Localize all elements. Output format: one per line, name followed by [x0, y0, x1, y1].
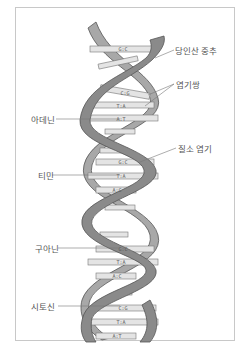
label-cytosine: 시토신 — [31, 300, 54, 312]
base-pair-text: T:A — [116, 173, 125, 179]
label-guanine: 구아닌 — [35, 242, 58, 254]
label-base-pair: 염기쌍 — [176, 78, 199, 90]
label-nitrogen-base: 질소 염기 — [178, 142, 212, 154]
base-pair-text: A:T — [112, 333, 121, 339]
label-adenine: 아데닌 — [31, 113, 54, 125]
base-pair-text: A:C — [112, 273, 121, 279]
base-pair-text: G:C — [118, 46, 127, 52]
base-pair-text: C:G — [120, 90, 129, 96]
base-pair-text: T:A — [116, 103, 125, 109]
base-pair-text: T:A — [116, 319, 125, 325]
label-backbone: 당인산 중추 — [175, 44, 217, 56]
base-pair-text: T:A — [116, 259, 125, 265]
base-pair-text: G:C — [118, 159, 127, 165]
base-pair-text: A:C — [112, 187, 121, 193]
label-thymine: 티민 — [38, 169, 54, 181]
base-pair-text: G:C — [118, 246, 127, 252]
